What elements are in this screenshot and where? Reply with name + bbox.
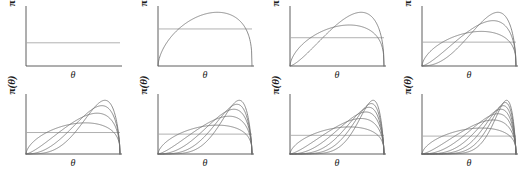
paren-open: (	[137, 0, 149, 1]
y-axis-label: π(θ)	[134, 56, 152, 114]
posterior-curve-5	[290, 104, 384, 154]
plot-svg	[26, 96, 120, 154]
pi-symbol: π	[5, 1, 17, 7]
paren-open: (	[269, 0, 281, 1]
panel-grid: π(θ)θπ(θ)θπ(θ)θπ(θ)θπ(θ)θπ(θ)θπ(θ)θπ(θ)θ	[0, 0, 528, 176]
pi-symbol: π	[401, 1, 413, 7]
x-axis-label: θ	[26, 69, 120, 81]
posterior-curve-1	[158, 125, 252, 154]
paren-close: )	[137, 75, 149, 79]
panel-5: π(θ)θ	[0, 88, 132, 176]
plot-area-3	[290, 8, 384, 66]
x-axis-label: θ	[290, 69, 384, 81]
posterior-curve-1	[26, 123, 120, 154]
posterior-curve-1	[158, 12, 252, 66]
plot-area-4	[422, 8, 516, 66]
pi-symbol: π	[269, 89, 281, 95]
plot-area-5	[26, 96, 120, 154]
posterior-curve-1	[290, 25, 384, 66]
pi-symbol: π	[269, 1, 281, 7]
y-axis-label: π(θ)	[134, 0, 152, 26]
posterior-curve-2	[158, 116, 252, 154]
y-axis-label: π(θ)	[398, 0, 416, 26]
posterior-curve-1	[422, 31, 516, 66]
pi-symbol: π	[137, 89, 149, 95]
posterior-curve-6	[290, 100, 384, 154]
y-axis-label: π(θ)	[266, 0, 284, 26]
paren-open: (	[401, 85, 413, 89]
x-axis-label: θ	[158, 157, 252, 169]
plot-svg	[422, 96, 516, 154]
x-axis-label: θ	[158, 69, 252, 81]
figure-panel-grid: π(θ)θπ(θ)θπ(θ)θπ(θ)θπ(θ)θπ(θ)θπ(θ)θπ(θ)θ	[0, 0, 528, 176]
plot-area-1	[26, 8, 120, 66]
y-axis-label: π(θ)	[2, 56, 20, 114]
plot-area-6	[158, 96, 252, 154]
posterior-curve-1	[290, 127, 384, 154]
x-axis-label: θ	[422, 69, 516, 81]
plot-svg	[290, 96, 384, 154]
posterior-curve-1	[422, 128, 516, 154]
plot-svg	[422, 8, 516, 66]
plot-svg	[26, 8, 120, 66]
panel-7: π(θ)θ	[264, 88, 396, 176]
posterior-curve-2	[290, 12, 384, 66]
plot-svg	[158, 96, 252, 154]
plot-area-8	[422, 96, 516, 154]
paren-open: (	[137, 85, 149, 89]
posterior-curve-7	[422, 100, 516, 154]
posterior-curve-6	[422, 103, 516, 154]
theta-symbol: θ	[137, 79, 149, 85]
y-axis-label: π(θ)	[398, 56, 416, 114]
panel-8: π(θ)θ	[396, 88, 528, 176]
theta-symbol: θ	[269, 79, 281, 85]
plot-area-7	[290, 96, 384, 154]
plot-area-2	[158, 8, 252, 66]
paren-open: (	[5, 85, 17, 89]
y-axis-label: π(θ)	[266, 56, 284, 114]
panel-6: π(θ)θ	[132, 88, 264, 176]
posterior-curve-5	[422, 106, 516, 154]
paren-open: (	[5, 0, 17, 1]
paren-close: )	[401, 75, 413, 79]
pi-symbol: π	[137, 1, 149, 7]
paren-close: )	[5, 75, 17, 79]
pi-symbol: π	[401, 89, 413, 95]
theta-symbol: θ	[5, 79, 17, 85]
paren-open: (	[269, 85, 281, 89]
plot-svg	[290, 8, 384, 66]
x-axis-label: θ	[26, 157, 120, 169]
theta-symbol: θ	[401, 79, 413, 85]
x-axis-label: θ	[422, 157, 516, 169]
x-axis-label: θ	[290, 157, 384, 169]
paren-close: )	[269, 75, 281, 79]
y-axis-label: π(θ)	[2, 0, 20, 26]
posterior-curve-2	[26, 113, 120, 154]
posterior-curve-5	[158, 100, 252, 154]
plot-svg	[158, 8, 252, 66]
paren-open: (	[401, 0, 413, 1]
posterior-curve-2	[422, 21, 516, 66]
pi-symbol: π	[5, 89, 17, 95]
